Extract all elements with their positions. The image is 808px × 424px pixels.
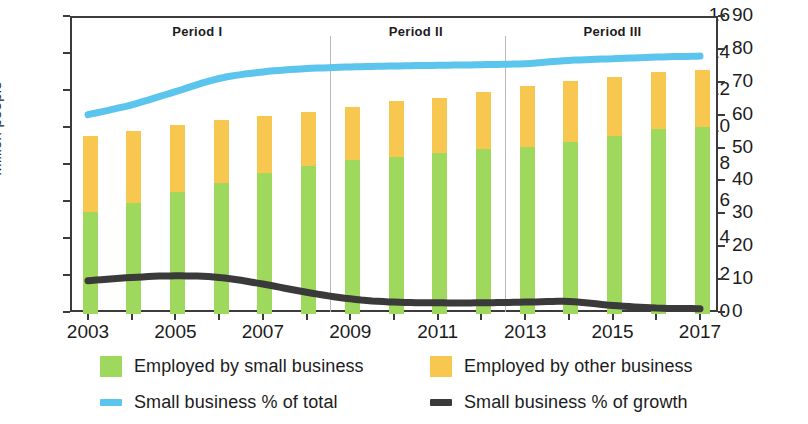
bar-segment-other-business xyxy=(257,116,272,173)
bar-segment-small-business xyxy=(563,142,578,314)
legend-item-label: Employed by small business xyxy=(134,356,364,377)
y-axis-right-tick-mark xyxy=(718,48,725,50)
bar-segment-other-business xyxy=(432,98,447,154)
y-axis-right-tick-label: 90 xyxy=(732,5,753,24)
y-axis-right-tick-label: 30 xyxy=(732,202,753,221)
period-label: Period III xyxy=(553,24,673,39)
legend-item[interactable]: Small business % of growth xyxy=(430,392,688,413)
chart-figure: Million people Percent 0246810121416 010… xyxy=(0,0,808,424)
y-axis-right-tick-mark xyxy=(718,15,725,17)
bar-segment-small-business xyxy=(83,212,98,314)
bar-segment-other-business xyxy=(170,125,185,192)
legend-swatch-line xyxy=(100,399,122,406)
legend-swatch-square xyxy=(100,356,122,377)
y-axis-left-tick-mark xyxy=(63,274,70,276)
legend-item-label: Small business % of growth xyxy=(464,392,688,413)
y-axis-right-tick-label: 10 xyxy=(732,268,753,287)
y-axis-right-tick-mark xyxy=(718,81,725,83)
bar-stack xyxy=(563,81,578,314)
bar-segment-small-business xyxy=(389,157,404,314)
bar-stack xyxy=(345,107,360,314)
x-axis-tick-label: 2009 xyxy=(320,322,380,341)
x-axis-tick-label: 2015 xyxy=(583,322,643,341)
y-axis-left-tick-mark xyxy=(63,15,70,17)
bar-stack xyxy=(214,120,229,314)
y-axis-left-tick-mark xyxy=(63,200,70,202)
y-axis-right-tick-mark xyxy=(718,179,725,181)
x-axis-tick-label: 2003 xyxy=(58,322,118,341)
y-axis-right-tick-label: 60 xyxy=(732,104,753,123)
bar-segment-small-business xyxy=(345,160,360,314)
legend-item-label: Small business % of total xyxy=(134,392,338,413)
y-axis-right-tick-mark xyxy=(718,245,725,247)
bar-segment-other-business xyxy=(520,86,535,147)
bar-segment-small-business xyxy=(476,149,491,314)
y-axis-right-tick-label: 0 xyxy=(732,301,743,320)
x-axis-tick-label: 2017 xyxy=(670,322,730,341)
bar-stack xyxy=(695,70,710,314)
bar-stack xyxy=(389,101,404,314)
y-axis-right-tick-mark xyxy=(718,147,725,149)
y-axis-left-tick-mark xyxy=(63,237,70,239)
bar-stack xyxy=(432,98,447,314)
bar-segment-small-business xyxy=(695,127,710,314)
y-axis-left-tick-label: 2 xyxy=(719,264,730,283)
bar-stack xyxy=(126,131,141,314)
y-axis-left-tick-label: 4 xyxy=(719,227,730,246)
bar-segment-other-business xyxy=(389,101,404,157)
bar-segment-other-business xyxy=(607,77,622,136)
bar-segment-small-business xyxy=(432,153,447,314)
bar-segment-small-business xyxy=(257,173,272,314)
bar-segment-small-business xyxy=(170,192,185,314)
bar-segment-other-business xyxy=(563,81,578,142)
bar-segment-other-business xyxy=(126,131,141,203)
legend-swatch-line xyxy=(430,399,452,406)
y-axis-left-tick-mark xyxy=(63,89,70,91)
chart-legend: Employed by small businessEmployed by ot… xyxy=(0,352,808,424)
y-axis-right-tick-label: 50 xyxy=(732,137,753,156)
legend-item[interactable]: Employed by small business xyxy=(100,356,364,377)
legend-item[interactable]: Employed by other business xyxy=(430,356,693,377)
bar-stack xyxy=(607,77,622,314)
bar-segment-other-business xyxy=(345,107,360,161)
bar-segment-other-business xyxy=(83,136,98,212)
plot-area xyxy=(70,16,718,312)
legend-item[interactable]: Small business % of total xyxy=(100,392,338,413)
y-axis-right-tick-mark xyxy=(718,114,725,116)
y-axis-right-tick-label: 80 xyxy=(732,38,753,57)
bar-segment-small-business xyxy=(607,136,622,314)
bar-segment-other-business xyxy=(476,92,491,149)
y-axis-right-tick-mark xyxy=(718,278,725,280)
y-axis-right-tick-label: 70 xyxy=(732,71,753,90)
bar-stack xyxy=(651,72,666,314)
bar-stack xyxy=(83,136,98,314)
y-axis-left-title: Million people xyxy=(0,81,4,176)
y-axis-left-tick-label: 6 xyxy=(719,190,730,209)
x-axis-tick-label: 2013 xyxy=(495,322,555,341)
legend-item-label: Employed by other business xyxy=(464,356,693,377)
bar-segment-other-business xyxy=(301,112,316,166)
bar-segment-small-business xyxy=(301,166,316,314)
bar-segment-small-business xyxy=(520,147,535,314)
period-label: Period I xyxy=(137,24,257,39)
bar-segment-other-business xyxy=(695,70,710,127)
y-axis-left-tick-mark xyxy=(63,163,70,165)
x-axis-tick-label: 2007 xyxy=(233,322,293,341)
bar-stack xyxy=(257,116,272,314)
y-axis-left-tick-mark xyxy=(63,311,70,313)
bar-stack xyxy=(301,112,316,314)
bar-segment-small-business xyxy=(214,183,229,314)
period-label: Period II xyxy=(356,24,476,39)
bar-segment-other-business xyxy=(214,120,229,183)
period-divider-line xyxy=(330,36,331,312)
y-axis-left-tick-label: 8 xyxy=(719,153,730,172)
bar-stack xyxy=(170,125,185,314)
y-axis-right-tick-mark xyxy=(718,311,725,313)
legend-swatch-square xyxy=(430,356,452,377)
bar-stack xyxy=(476,92,491,314)
period-divider-line xyxy=(505,36,506,312)
x-axis-tick-label: 2011 xyxy=(408,322,468,341)
y-axis-right-tick-label: 20 xyxy=(732,235,753,254)
y-axis-right-tick-label: 40 xyxy=(732,169,753,188)
y-axis-right-tick-mark xyxy=(718,212,725,214)
